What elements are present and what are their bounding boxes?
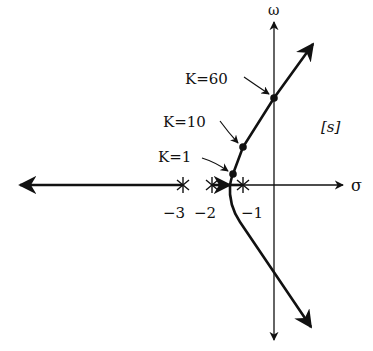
real-axis-label: σ: [351, 176, 362, 195]
locus-branch-upper: [230, 44, 313, 185]
root-locus-diagram: ω σ [s] K=1 K=10 K=60 −3 −2 −1: [0, 0, 373, 351]
gain-arrow-k10: [220, 121, 238, 143]
gain-point-k60-dot: [270, 94, 278, 102]
gain-arrow-k60: [244, 77, 269, 94]
pole-label-minus-2: −2: [194, 204, 216, 222]
pole-label-minus-1: −1: [241, 204, 263, 222]
gain-arrow-k1: [202, 158, 228, 171]
gain-label-k10: K=10: [163, 113, 206, 131]
gain-point-k1-dot: [229, 170, 237, 178]
imag-axis-label: ω: [268, 2, 279, 18]
plane-label: [s]: [321, 118, 341, 136]
gain-label-k60: K=60: [185, 70, 228, 88]
pole-label-minus-3: −3: [163, 204, 185, 222]
gain-point-k10-dot: [239, 143, 247, 151]
gain-label-k1: K=1: [158, 148, 191, 166]
